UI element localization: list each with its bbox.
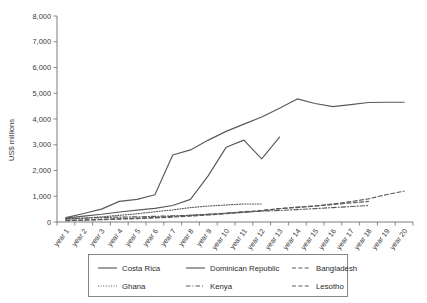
y-tick-label: 4,000 <box>33 115 52 124</box>
y-axis-ticks: 01,0002,0003,0004,0005,0006,0007,0008,00… <box>33 12 58 227</box>
x-tick-label: year 13 <box>263 227 285 252</box>
x-tick-label: year 3 <box>87 227 106 248</box>
x-tick-label: year 15 <box>299 227 321 252</box>
x-tick-label: year 6 <box>141 227 160 248</box>
legend-label-lesotho: Lesotho <box>316 282 344 291</box>
x-tick-label: year 10 <box>210 227 232 252</box>
x-tick-label: year 5 <box>123 227 142 248</box>
y-axis-title-label: US$ millions <box>7 119 16 161</box>
x-tick-label: year 4 <box>105 227 124 248</box>
x-tick-label: year 16 <box>316 227 338 252</box>
x-tick-label: year 7 <box>159 227 178 248</box>
x-tick-label: year 17 <box>334 227 356 252</box>
series-line-bangladesh <box>66 191 404 220</box>
y-tick-label: 0 <box>47 218 51 227</box>
x-tick-label: year 8 <box>176 227 195 248</box>
y-axis-title: US$ millions <box>7 119 16 161</box>
x-tick-label: year 12 <box>245 227 267 252</box>
y-tick-label: 5,000 <box>33 89 52 98</box>
y-tick-label: 1,000 <box>33 192 52 201</box>
y-tick-label: 8,000 <box>33 12 52 21</box>
legend-label-kenya: Kenya <box>210 282 233 291</box>
x-tick-label: year 18 <box>352 227 374 252</box>
series-lines <box>66 99 404 221</box>
y-tick-label: 2,000 <box>33 166 52 175</box>
chart-figure: US$ millions 01,0002,0003,0004,0005,0006… <box>0 0 427 303</box>
x-axis-ticks: year 1year 2year 3year 4year 5year 6year… <box>52 222 413 251</box>
legend-label-ghana: Ghana <box>122 282 146 291</box>
x-tick-label: year 19 <box>370 227 392 252</box>
y-tick-label: 7,000 <box>33 37 52 46</box>
chart-legend: Costa RicaDominican RepublicBangladeshGh… <box>89 255 358 297</box>
x-tick-label: year 2 <box>70 227 89 248</box>
series-line-kenya <box>66 206 369 219</box>
x-tick-label: year 20 <box>388 227 410 252</box>
y-tick-label: 3,000 <box>33 140 52 149</box>
series-line-costa-rica <box>66 99 404 218</box>
legend-label-dominican-republic: Dominican Republic <box>210 264 279 273</box>
legend-label-costa-rica: Costa Rica <box>122 264 161 273</box>
x-tick-label: year 1 <box>52 227 71 248</box>
legend-label-bangladesh: Bangladesh <box>316 264 357 273</box>
series-line-dominican-republic <box>66 137 280 218</box>
y-tick-label: 6,000 <box>33 63 52 72</box>
x-tick-label: year 14 <box>281 227 303 252</box>
line-chart: US$ millions 01,0002,0003,0004,0005,0006… <box>0 0 427 303</box>
